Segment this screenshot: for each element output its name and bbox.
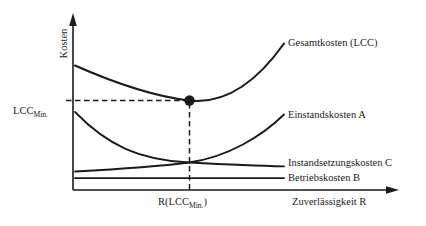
curve-einstandskosten-a (75, 115, 284, 172)
x-tick-label-prefix: R(LCC (158, 196, 189, 207)
y-tick-label-subscript: Min. (33, 110, 48, 119)
curve-label-gesamtkosten-lcc: Gesamtkosten (LCC) (288, 38, 378, 49)
minimum-point-marker (184, 95, 194, 105)
lcc-cost-diagram: Kosten LCCMin. R(LCCMin.) Zuverlässigkei… (0, 0, 426, 226)
y-tick-label-lcc-min: LCCMin. (13, 106, 48, 119)
curve-label-betriebskosten-b: Betriebskosten B (288, 173, 360, 184)
curve-label-instandsetzungskosten-c: Instandsetzungskosten C (288, 158, 392, 169)
x-tick-label-subscript: Min. (189, 201, 204, 210)
x-axis-title: Zuverlässigkeit R (292, 197, 366, 208)
x-tick-label-r-lcc-min: R(LCCMin.) (158, 197, 207, 210)
y-axis-title: Kosten (58, 15, 69, 73)
y-tick-label-text: LCC (13, 105, 33, 116)
y-axis-arrow-icon (69, 13, 77, 26)
x-tick-label-suffix: ) (203, 196, 207, 207)
curve-label-einstandskosten-a: Einstandskosten A (288, 110, 366, 121)
x-axis-arrow-icon (386, 186, 399, 194)
curve-gesamtkosten-lcc (75, 44, 284, 101)
